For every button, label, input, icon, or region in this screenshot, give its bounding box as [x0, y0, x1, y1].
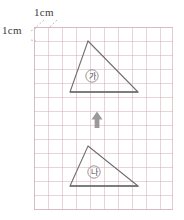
triangle-ga-badge: 가: [86, 70, 98, 82]
triangle-na: 나: [70, 146, 138, 186]
up-arrow-icon: [92, 112, 103, 129]
diagram-overlay: 가 나: [0, 0, 184, 220]
triangle-na-label: 나: [91, 168, 99, 177]
triangle-ga-label: 가: [89, 72, 97, 81]
dimension-leaders: [31, 20, 57, 41]
triangle-na-badge: 나: [88, 166, 100, 178]
worksheet-canvas: 1cm 1cm 가 나: [0, 0, 184, 220]
triangle-ga: 가: [70, 41, 138, 92]
